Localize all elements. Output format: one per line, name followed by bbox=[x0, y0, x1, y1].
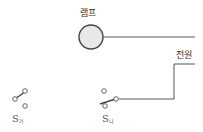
switch-s1-label: S가 bbox=[12, 113, 24, 124]
switch-s2-icon[interactable] bbox=[100, 89, 118, 109]
lamp-icon bbox=[79, 25, 103, 49]
lamp-label: 램프 bbox=[80, 6, 96, 19]
power-wire bbox=[119, 64, 195, 99]
switch-s1-subscript: 가 bbox=[19, 118, 24, 124]
switch-s1-symbol: S bbox=[12, 113, 19, 124]
switch-s2-label: S나 bbox=[102, 113, 114, 124]
switch-s1-icon[interactable] bbox=[13, 89, 28, 109]
power-label: 전원 bbox=[176, 48, 192, 61]
switch-s2-subscript: 나 bbox=[109, 118, 114, 124]
switch-s2-symbol: S bbox=[102, 113, 109, 124]
